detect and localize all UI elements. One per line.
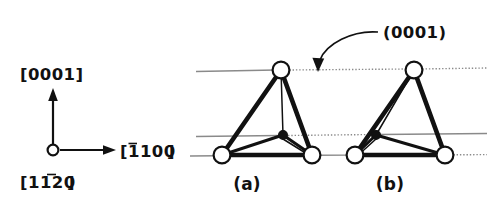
figure-canvas: [0001] [ 1100 ] [ 1120 ] [0, 0, 490, 201]
crystallography-figure: [0001] [ 1100 ] [ 1120 ] [0, 0, 490, 201]
tet-a-base-left-node [214, 147, 231, 164]
direction-label-1100-open: [ [120, 142, 128, 161]
tet-a-apex-node [273, 62, 290, 79]
direction-label-1120-close: ] [67, 173, 75, 192]
tet-b-apex-node [406, 62, 423, 79]
tet-b-base-right-node [437, 147, 454, 164]
direction-label-1120-open: [ [20, 173, 28, 192]
direction-label-0001: [0001] [20, 65, 83, 84]
tet-a-base-right-node [304, 147, 321, 164]
tet-a-center-node [279, 131, 288, 140]
panel-label-b: (b) [376, 174, 404, 194]
direction-label-1120-group: [ 1120 ] [20, 173, 76, 192]
direction-label-1100-close: ] [167, 142, 175, 161]
tet-b-center-node [372, 131, 381, 140]
axes-origin-circle [48, 145, 59, 156]
middle-basal-plane-right [380, 134, 487, 135]
panel-label-a: (a) [233, 174, 261, 194]
plane-label-0001: (0001) [383, 23, 446, 42]
tet-b-base-left-node [347, 147, 364, 164]
direction-label-1100-group: [ 1100 ] [120, 142, 176, 161]
